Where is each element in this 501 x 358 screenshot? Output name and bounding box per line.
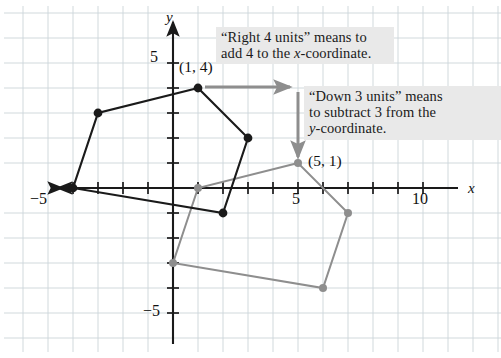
image-polygon-vertices	[169, 159, 352, 292]
y-axis-label: y	[166, 9, 173, 26]
x-tick-label-5: 5	[292, 190, 300, 208]
callout-right-line1: “Right 4 units” means to	[221, 29, 390, 45]
figure-container: x y −5 5 10 5 −5 (1, 4) (5, 1) “Right 4 …	[0, 0, 501, 358]
y-tick-label-5: 5	[150, 48, 158, 66]
x-tick-label-neg5: −5	[30, 190, 47, 208]
callout-down-line3: y-coordinate.	[309, 120, 497, 136]
callout-down-line1: “Down 3 units” means	[309, 88, 497, 104]
callout-down-3-units: “Down 3 units” means to subtract 3 from …	[304, 86, 501, 140]
callout-right-4-units: “Right 4 units” means to add 4 to the x-…	[216, 27, 394, 64]
x-axis-label: x	[468, 180, 475, 197]
callout-down-line3-after: -coordinate.	[316, 120, 387, 136]
point-label-preimage: (1, 4)	[179, 58, 213, 76]
callout-right-line2-after: -coordinate.	[301, 45, 372, 61]
callout-right-line2-before: add 4 to the	[221, 45, 294, 61]
callout-right-line2: add 4 to the x-coordinate.	[221, 45, 390, 61]
callout-down-line2: to subtract 3 from the	[309, 104, 497, 120]
image-polygon	[173, 163, 348, 288]
x-tick-label-10: 10	[412, 190, 428, 208]
point-label-image: (5, 1)	[308, 152, 342, 170]
y-tick-label-neg5: −5	[143, 302, 160, 320]
preimage-polygon-vertices	[69, 84, 253, 218]
preimage-polygon	[73, 88, 248, 213]
